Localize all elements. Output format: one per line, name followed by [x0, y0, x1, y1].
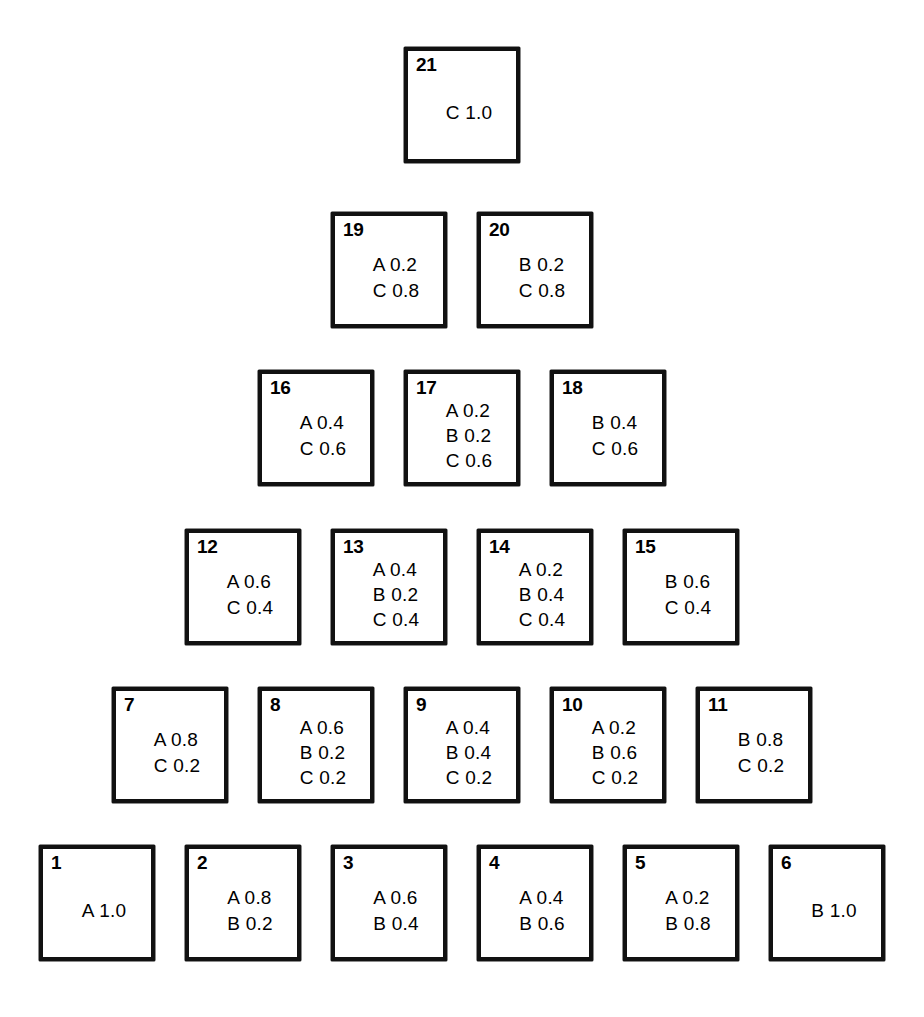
cell-id-label: 9: [416, 695, 426, 714]
component-line: A 0.2: [592, 716, 636, 740]
cell-composition: A 0.2C 0.8: [359, 253, 419, 303]
lattice-row-0: 21C 1.0: [0, 47, 924, 163]
component-line: C 0.4: [373, 608, 419, 632]
component-line: B 0.4: [446, 741, 491, 765]
component-line: B 0.2: [446, 424, 491, 448]
lattice-row-3: 12A 0.6C 0.413A 0.4B 0.2C 0.414A 0.2B 0.…: [0, 529, 924, 645]
component-line: B 0.2: [519, 253, 564, 277]
cell-id-label: 20: [489, 220, 510, 239]
component-line: A 0.2: [665, 886, 709, 910]
lattice-cell-1[interactable]: 1A 1.0: [39, 845, 155, 961]
cell-id-label: 12: [197, 537, 218, 556]
lattice-cell-12[interactable]: 12A 0.6C 0.4: [185, 529, 301, 645]
lattice-cell-14[interactable]: 14A 0.2B 0.4C 0.4: [477, 529, 593, 645]
component-line: A 0.4: [300, 411, 344, 435]
lattice-cell-11[interactable]: 11B 0.8C 0.2: [696, 687, 812, 803]
lattice-cell-8[interactable]: 8A 0.6B 0.2C 0.2: [258, 687, 374, 803]
cell-composition: B 0.4C 0.6: [578, 411, 638, 461]
lattice-cell-16[interactable]: 16A 0.4C 0.6: [258, 370, 374, 486]
cell-id-label: 7: [124, 695, 134, 714]
component-line: B 0.8: [665, 912, 710, 936]
cell-composition: A 0.6B 0.4: [359, 886, 418, 936]
lattice-cell-10[interactable]: 10A 0.2B 0.6C 0.2: [550, 687, 666, 803]
lattice-cell-3[interactable]: 3A 0.6B 0.4: [331, 845, 447, 961]
lattice-cell-2[interactable]: 2A 0.8B 0.2: [185, 845, 301, 961]
component-line: A 0.8: [154, 728, 198, 752]
lattice-row-2: 16A 0.4C 0.617A 0.2B 0.2C 0.618B 0.4C 0.…: [0, 370, 924, 486]
component-line: C 0.8: [519, 279, 565, 303]
cell-composition: A 0.2B 0.6C 0.2: [578, 716, 638, 791]
component-line: A 1.0: [82, 899, 126, 923]
component-line: A 0.6: [300, 716, 344, 740]
component-line: C 0.8: [373, 279, 419, 303]
component-line: C 1.0: [446, 101, 492, 125]
lattice-cell-19[interactable]: 19A 0.2C 0.8: [331, 212, 447, 328]
component-line: C 0.4: [665, 596, 711, 620]
lattice-cell-17[interactable]: 17A 0.2B 0.2C 0.6: [404, 370, 520, 486]
lattice-row-1: 19A 0.2C 0.820B 0.2C 0.8: [0, 212, 924, 328]
component-line: B 0.6: [592, 741, 637, 765]
cell-composition: A 0.4B 0.4C 0.2: [432, 716, 492, 791]
component-line: C 0.2: [154, 754, 200, 778]
component-line: A 0.6: [227, 570, 271, 594]
cell-composition: A 0.2B 0.4C 0.4: [505, 558, 565, 633]
lattice-cell-21[interactable]: 21C 1.0: [404, 47, 520, 163]
component-line: C 0.6: [300, 437, 346, 461]
component-line: A 0.2: [373, 253, 417, 277]
lattice-cell-18[interactable]: 18B 0.4C 0.6: [550, 370, 666, 486]
component-line: A 0.6: [373, 886, 417, 910]
cell-id-label: 2: [197, 853, 207, 872]
cell-composition: A 0.4C 0.6: [286, 411, 346, 461]
component-line: C 0.2: [592, 766, 638, 790]
cell-id-label: 16: [270, 378, 291, 397]
lattice-cell-13[interactable]: 13A 0.4B 0.2C 0.4: [331, 529, 447, 645]
lattice-row-5: 1A 1.02A 0.8B 0.23A 0.6B 0.44A 0.4B 0.65…: [0, 845, 924, 961]
lattice-cell-9[interactable]: 9A 0.4B 0.4C 0.2: [404, 687, 520, 803]
component-line: B 0.2: [227, 912, 272, 936]
lattice-cell-6[interactable]: 6B 1.0: [769, 845, 885, 961]
component-line: B 0.6: [665, 570, 710, 594]
cell-composition: A 0.4B 0.6: [505, 886, 564, 936]
cell-id-label: 14: [489, 537, 510, 556]
cell-composition: A 0.8C 0.2: [140, 728, 200, 778]
simplex-lattice-diagram: 21C 1.019A 0.2C 0.820B 0.2C 0.816A 0.4C …: [0, 0, 924, 1017]
component-line: C 0.6: [446, 449, 492, 473]
lattice-cell-5[interactable]: 5A 0.2B 0.8: [623, 845, 739, 961]
component-line: C 0.4: [519, 608, 565, 632]
cell-composition: A 0.8B 0.2: [213, 886, 272, 936]
cell-composition: A 0.6C 0.4: [213, 570, 273, 620]
component-line: A 0.2: [519, 558, 563, 582]
cell-composition: B 0.2C 0.8: [505, 253, 565, 303]
cell-id-label: 1: [51, 853, 61, 872]
cell-id-label: 5: [635, 853, 645, 872]
cell-composition: B 0.6C 0.4: [651, 570, 711, 620]
component-line: A 0.4: [373, 558, 417, 582]
component-line: B 1.0: [811, 899, 856, 923]
cell-composition: C 1.0: [432, 101, 492, 125]
component-line: B 0.6: [519, 912, 564, 936]
component-line: B 0.2: [373, 583, 418, 607]
component-line: C 0.2: [300, 766, 346, 790]
cell-id-label: 19: [343, 220, 364, 239]
lattice-cell-20[interactable]: 20B 0.2C 0.8: [477, 212, 593, 328]
cell-composition: B 1.0: [797, 899, 856, 923]
lattice-cell-15[interactable]: 15B 0.6C 0.4: [623, 529, 739, 645]
cell-id-label: 6: [781, 853, 791, 872]
lattice-cell-4[interactable]: 4A 0.4B 0.6: [477, 845, 593, 961]
cell-composition: A 0.2B 0.2C 0.6: [432, 399, 492, 474]
component-line: B 0.2: [300, 741, 345, 765]
component-line: B 0.4: [592, 411, 637, 435]
component-line: C 0.2: [738, 754, 784, 778]
cell-id-label: 4: [489, 853, 499, 872]
cell-id-label: 21: [416, 55, 437, 74]
cell-id-label: 17: [416, 378, 437, 397]
component-line: B 0.4: [519, 583, 564, 607]
cell-composition: A 0.4B 0.2C 0.4: [359, 558, 419, 633]
cell-id-label: 15: [635, 537, 656, 556]
cell-id-label: 18: [562, 378, 583, 397]
component-line: B 0.8: [738, 728, 783, 752]
component-line: A 0.8: [227, 886, 271, 910]
cell-composition: A 1.0: [68, 899, 126, 923]
lattice-cell-7[interactable]: 7A 0.8C 0.2: [112, 687, 228, 803]
component-line: C 0.6: [592, 437, 638, 461]
